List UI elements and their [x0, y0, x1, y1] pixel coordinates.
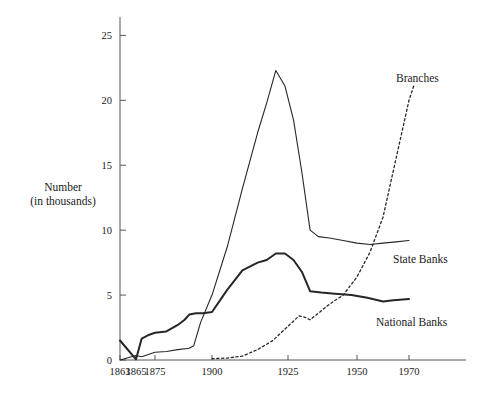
x-tick-label: 1950	[347, 366, 368, 377]
y-axis-label-line1: Number	[22, 180, 104, 194]
y-tick-label: 15	[102, 160, 113, 171]
x-tick-label: 1865	[126, 366, 147, 377]
y-axis-label-line2: (in thousands)	[22, 194, 104, 208]
y-tick-label: 0	[107, 355, 112, 366]
bank-growth-chart: 05101520251863186518751900192519501970 N…	[0, 0, 481, 405]
x-tick-label: 1970	[399, 366, 420, 377]
x-tick-label: 1875	[145, 366, 166, 377]
series-line-state-banks	[120, 70, 409, 360]
series-label-branches: Branches	[396, 72, 439, 84]
x-tick-label: 1900	[202, 366, 223, 377]
series-label-national-banks: National Banks	[376, 316, 447, 328]
y-tick-label: 5	[107, 290, 112, 301]
y-axis-label: Number (in thousands)	[22, 180, 104, 209]
series-line-national-banks	[120, 254, 409, 360]
y-tick-label: 10	[102, 225, 113, 236]
y-tick-label: 20	[102, 95, 113, 106]
y-tick-label: 25	[102, 30, 113, 41]
series-label-state-banks: State Banks	[393, 253, 448, 265]
x-tick-label: 1925	[278, 366, 299, 377]
